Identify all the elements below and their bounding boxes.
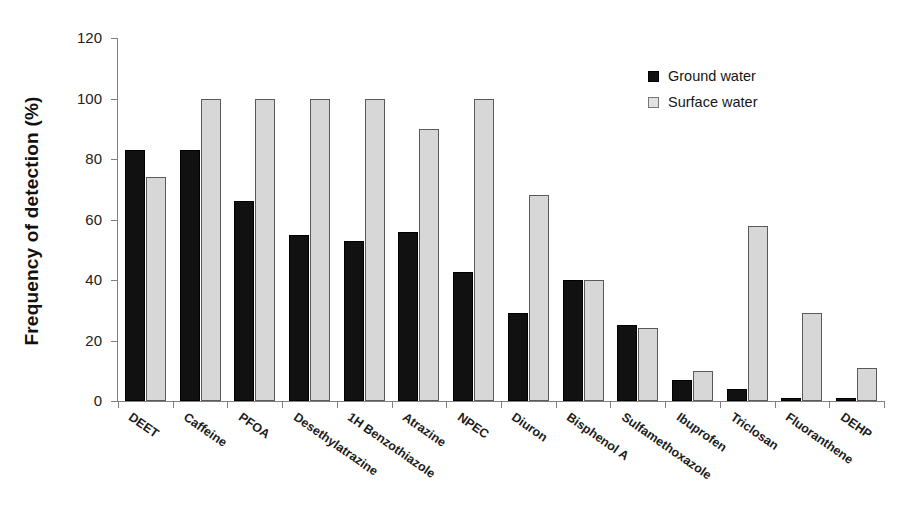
bar-surface-water — [802, 313, 822, 401]
y-tick-mark — [111, 341, 118, 342]
x-tick-mark — [884, 401, 885, 408]
y-tick-label: 100 — [56, 90, 102, 107]
bar-group — [446, 38, 501, 401]
bar-surface-water — [255, 99, 275, 402]
bar-group — [829, 38, 884, 401]
bar-surface-water — [529, 195, 549, 401]
y-axis-title: Frequency of detection (%) — [21, 71, 43, 371]
bar-ground-water — [344, 241, 364, 401]
x-tick-mark — [610, 401, 611, 408]
bar-ground-water — [289, 235, 309, 401]
y-tick-label: 0 — [56, 392, 102, 409]
bar-surface-water — [419, 129, 439, 401]
y-tick-label: 80 — [56, 150, 102, 167]
bar-ground-water — [727, 389, 747, 401]
y-tick-mark — [111, 159, 118, 160]
bar-surface-water — [693, 371, 713, 401]
x-axis-label: DEET — [126, 410, 161, 441]
bar-ground-water — [563, 280, 583, 401]
x-tick-mark — [173, 401, 174, 408]
x-axis-label: Atrazine — [400, 410, 448, 450]
bar-group — [282, 38, 337, 401]
x-tick-mark — [829, 401, 830, 408]
legend-label-surface-water: Surface water — [668, 94, 757, 110]
x-tick-mark — [227, 401, 228, 408]
bar-chart: Frequency of detection (%) 0204060801001… — [0, 0, 900, 508]
x-tick-mark — [337, 401, 338, 408]
x-tick-mark — [556, 401, 557, 408]
x-tick-mark — [392, 401, 393, 408]
bar-group — [337, 38, 392, 401]
x-axis-label: Caffeine — [181, 410, 229, 450]
bar-ground-water — [617, 325, 637, 401]
y-tick-label: 120 — [56, 29, 102, 46]
x-tick-mark — [775, 401, 776, 408]
bar-surface-water — [857, 368, 877, 401]
bar-ground-water — [781, 398, 801, 401]
bar-ground-water — [836, 398, 856, 401]
legend-label-ground-water: Ground water — [668, 68, 756, 84]
legend-swatch-ground-water-icon — [648, 71, 659, 82]
x-axis-label: PFOA — [236, 410, 272, 441]
bar-group — [173, 38, 228, 401]
bar-surface-water — [474, 99, 494, 402]
bar-surface-water — [201, 99, 221, 402]
x-tick-mark — [118, 401, 119, 408]
bar-group — [501, 38, 556, 401]
bar-surface-water — [146, 177, 166, 401]
x-axis-label: Triclosan — [728, 410, 781, 453]
bar-surface-water — [365, 99, 385, 402]
legend-item-ground-water: Ground water — [648, 63, 757, 89]
y-tick-mark — [111, 280, 118, 281]
bar-group — [392, 38, 447, 401]
bar-group — [227, 38, 282, 401]
x-axis-label: Sulfamethoxazole — [619, 410, 714, 482]
bar-ground-water — [125, 150, 145, 401]
bar-ground-water — [672, 380, 692, 401]
x-tick-mark — [501, 401, 502, 408]
x-axis-label: DEHP — [838, 410, 874, 441]
bar-surface-water — [748, 226, 768, 401]
bar-surface-water — [638, 328, 658, 401]
chart-legend: Ground water Surface water — [648, 63, 757, 115]
x-axis-label: Diuron — [509, 410, 550, 445]
y-tick-mark — [111, 38, 118, 39]
x-tick-mark — [446, 401, 447, 408]
bar-ground-water — [398, 232, 418, 401]
plot-area — [118, 38, 884, 401]
bar-ground-water — [234, 201, 254, 401]
x-tick-mark — [665, 401, 666, 408]
y-tick-mark — [111, 401, 118, 402]
bar-ground-water — [453, 272, 473, 401]
y-tick-mark — [111, 220, 118, 221]
x-axis-label: NPEC — [455, 410, 491, 441]
x-tick-mark — [282, 401, 283, 408]
y-tick-label: 40 — [56, 271, 102, 288]
bar-ground-water — [508, 313, 528, 401]
legend-swatch-surface-water-icon — [648, 97, 659, 108]
bar-group — [118, 38, 173, 401]
y-tick-label: 20 — [56, 332, 102, 349]
bar-surface-water — [584, 280, 604, 401]
bar-group — [556, 38, 611, 401]
bar-surface-water — [310, 99, 330, 402]
legend-item-surface-water: Surface water — [648, 89, 757, 115]
bar-ground-water — [180, 150, 200, 401]
y-tick-mark — [111, 99, 118, 100]
y-tick-label: 60 — [56, 211, 102, 228]
x-tick-mark — [720, 401, 721, 408]
bar-group — [775, 38, 830, 401]
